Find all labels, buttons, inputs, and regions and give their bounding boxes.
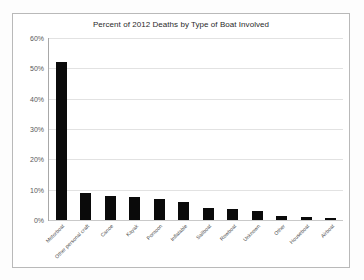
x-label-slot: Pontoon bbox=[147, 221, 172, 277]
bar[interactable] bbox=[129, 197, 140, 220]
bar[interactable] bbox=[80, 193, 91, 220]
x-axis-tick-labels: MotorboatOther personal craftCanoeKayakP… bbox=[49, 221, 343, 277]
chart-frame: Percent of 2012 Deaths by Type of Boat I… bbox=[12, 13, 350, 268]
x-tick-label: Motorboat bbox=[45, 223, 66, 244]
bar-slot bbox=[147, 38, 172, 220]
x-label-slot: Canoe bbox=[98, 221, 123, 277]
bar[interactable] bbox=[105, 196, 116, 220]
bar[interactable] bbox=[227, 209, 238, 220]
bar[interactable] bbox=[178, 202, 189, 220]
x-label-slot: Other personal craft bbox=[74, 221, 99, 277]
bar-slot bbox=[172, 38, 197, 220]
x-label-slot: Kayak bbox=[123, 221, 148, 277]
x-tick-label: Inflatable bbox=[169, 223, 188, 242]
x-tick-label: Pontoon bbox=[146, 223, 164, 241]
y-axis-tick-labels: 60%50%40%30%20%10%0% bbox=[13, 38, 44, 220]
x-tick-label: Sailboat bbox=[195, 223, 213, 241]
x-tick-label: Airboat bbox=[319, 223, 335, 239]
bar-slot bbox=[196, 38, 221, 220]
bar-slot bbox=[74, 38, 99, 220]
x-tick-label: Other bbox=[273, 223, 286, 236]
bar[interactable] bbox=[252, 211, 263, 220]
x-label-slot: Houseboat bbox=[294, 221, 319, 277]
y-tick-label: 0% bbox=[34, 217, 44, 224]
bar-slot bbox=[123, 38, 148, 220]
plot-area bbox=[49, 38, 343, 220]
x-tick-label: Unknown bbox=[242, 223, 262, 243]
bar-slot bbox=[221, 38, 246, 220]
x-label-slot: Airboat bbox=[319, 221, 344, 277]
bar-slot bbox=[98, 38, 123, 220]
x-label-slot: Inflatable bbox=[172, 221, 197, 277]
x-tick-label: Rowboat bbox=[218, 223, 237, 242]
chart-title: Percent of 2012 Deaths by Type of Boat I… bbox=[13, 20, 349, 29]
bar[interactable] bbox=[276, 216, 287, 220]
y-tick-label: 10% bbox=[30, 186, 44, 193]
bar[interactable] bbox=[301, 217, 312, 220]
chart-page: Percent of 2012 Deaths by Type of Boat I… bbox=[0, 0, 364, 280]
y-tick-label: 30% bbox=[30, 126, 44, 133]
y-tick-label: 40% bbox=[30, 95, 44, 102]
bar[interactable] bbox=[203, 208, 214, 220]
y-tick-label: 60% bbox=[30, 35, 44, 42]
x-tick-label: Canoe bbox=[99, 223, 114, 238]
y-tick-label: 50% bbox=[30, 65, 44, 72]
x-tick-label: Kayak bbox=[125, 223, 139, 237]
x-label-slot: Rowboat bbox=[221, 221, 246, 277]
bar-slot bbox=[270, 38, 295, 220]
bar-slot bbox=[245, 38, 270, 220]
bar[interactable] bbox=[154, 199, 165, 220]
x-label-slot: Unknown bbox=[245, 221, 270, 277]
bar-slot bbox=[49, 38, 74, 220]
x-label-slot: Sailboat bbox=[196, 221, 221, 277]
bar[interactable] bbox=[56, 62, 67, 220]
bar-slot bbox=[319, 38, 344, 220]
x-label-slot: Other bbox=[270, 221, 295, 277]
bar[interactable] bbox=[325, 218, 336, 220]
bar-slot bbox=[294, 38, 319, 220]
y-tick-label: 20% bbox=[30, 156, 44, 163]
